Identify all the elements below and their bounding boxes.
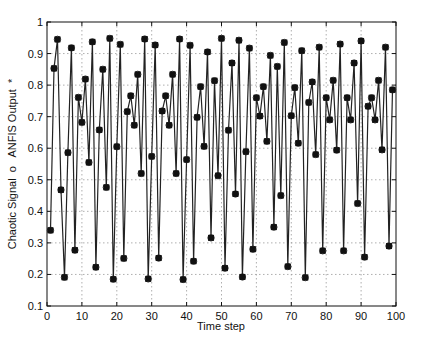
anfis-output-marker: [267, 52, 273, 58]
anfis-output-marker: [362, 254, 368, 260]
anfis-output-marker: [145, 276, 151, 282]
anfis-output-marker: [138, 170, 144, 176]
anfis-output-marker: [61, 274, 67, 280]
x-tick-label: 70: [285, 310, 297, 322]
x-tick-label: 60: [250, 310, 262, 322]
x-tick-label: 90: [355, 310, 367, 322]
y-tick-label: 0.7: [28, 111, 43, 123]
anfis-output-marker: [225, 127, 231, 133]
x-axis-label: Time step: [197, 320, 245, 332]
y-tick-label: 0.2: [28, 268, 43, 280]
y-tick-label: 0.5: [28, 174, 43, 186]
anfis-output-marker: [184, 157, 190, 163]
anfis-output-marker: [285, 264, 291, 270]
anfis-output-marker: [306, 99, 312, 105]
anfis-output-marker: [177, 36, 183, 42]
anfis-output-marker: [348, 117, 354, 123]
anfis-output-marker: [239, 274, 245, 280]
anfis-output-marker: [159, 108, 165, 114]
anfis-output-marker: [96, 127, 102, 133]
anfis-output-marker: [288, 113, 294, 119]
anfis-output-marker: [187, 42, 193, 48]
anfis-output-marker: [369, 95, 375, 101]
anfis-output-marker: [117, 41, 123, 47]
anfis-output-marker: [295, 140, 301, 146]
anfis-output-marker: [191, 258, 197, 264]
anfis-output-marker: [163, 93, 169, 99]
anfis-output-marker: [351, 60, 357, 66]
anfis-output-marker: [107, 35, 113, 41]
anfis-output-marker: [243, 149, 249, 155]
x-tick-label: 30: [146, 310, 158, 322]
anfis-output-marker: [208, 235, 214, 241]
anfis-output-marker: [149, 153, 155, 159]
x-tick-label: 40: [180, 310, 192, 322]
y-tick-label: 0.4: [28, 205, 43, 217]
anfis-output-marker: [75, 94, 81, 100]
y-tick-label: 0.1: [28, 300, 43, 312]
anfis-output-marker: [79, 119, 85, 125]
anfis-output-marker: [219, 35, 225, 41]
anfis-output-marker: [264, 138, 270, 144]
x-tick-label: 0: [44, 310, 50, 322]
anfis-output-marker: [278, 193, 284, 199]
anfis-output-marker: [344, 95, 350, 101]
anfis-output-marker: [365, 103, 371, 109]
anfis-output-marker: [131, 122, 137, 128]
anfis-output-marker: [292, 85, 298, 91]
y-tick-label: 0.3: [28, 237, 43, 249]
x-tick-label: 80: [320, 310, 332, 322]
anfis-output-marker: [170, 71, 176, 77]
y-tick-label: 1: [37, 16, 43, 28]
anfis-output-marker: [135, 71, 141, 77]
anfis-output-marker: [302, 275, 308, 281]
x-tick-label: 100: [387, 310, 405, 322]
anfis-output-marker: [58, 187, 64, 193]
y-axis-label: Chaotic Signal o ANFIS Output *: [6, 78, 18, 249]
anfis-output-marker: [379, 147, 385, 153]
anfis-output-marker: [54, 36, 60, 42]
anfis-output-marker: [51, 65, 57, 71]
anfis-output-marker: [232, 191, 238, 197]
anfis-output-marker: [250, 246, 256, 252]
anfis-output-marker: [386, 243, 392, 249]
anfis-output-marker: [194, 114, 200, 120]
anfis-output-marker: [152, 42, 158, 48]
anfis-output-marker: [246, 45, 252, 51]
anfis-output-marker: [334, 147, 340, 153]
anfis-output-marker: [376, 77, 382, 83]
anfis-output-marker: [201, 143, 207, 149]
anfis-output-marker: [274, 63, 280, 69]
y-tick-label: 0.9: [28, 48, 43, 60]
x-tick-label: 10: [76, 310, 88, 322]
anfis-output-marker: [156, 255, 162, 261]
anfis-output-marker: [65, 150, 71, 156]
anfis-output-marker: [100, 66, 106, 72]
anfis-output-marker: [93, 264, 99, 270]
anfis-output-marker: [281, 40, 287, 46]
anfis-output-marker: [316, 44, 322, 50]
anfis-output-marker: [166, 122, 172, 128]
anfis-output-marker: [358, 38, 364, 44]
anfis-output-marker: [320, 248, 326, 254]
anfis-output-marker: [390, 87, 396, 93]
anfis-output-marker: [89, 39, 95, 45]
anfis-output-marker: [110, 276, 116, 282]
anfis-output-marker: [253, 95, 259, 101]
anfis-output-marker: [72, 247, 78, 253]
anfis-output-marker: [236, 37, 242, 43]
anfis-output-marker: [323, 95, 329, 101]
y-tick-label: 0.6: [28, 142, 43, 154]
anfis-output-marker: [68, 45, 74, 51]
anfis-output-marker: [260, 84, 266, 90]
anfis-output-marker: [205, 49, 211, 55]
anfis-output-marker: [128, 93, 134, 99]
anfis-output-marker: [47, 227, 53, 233]
anfis-output-marker: [309, 79, 315, 85]
anfis-output-marker: [82, 76, 88, 82]
x-tick-label: 20: [111, 310, 123, 322]
anfis-output-marker: [313, 152, 319, 158]
anfis-output-marker: [212, 78, 218, 84]
anfis-output-marker: [198, 84, 204, 90]
anfis-output-marker: [341, 248, 347, 254]
